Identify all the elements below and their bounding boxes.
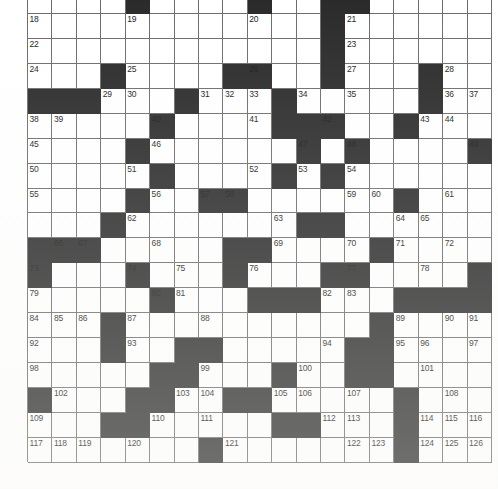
crossword-cell[interactable]: 85 — [52, 313, 76, 338]
crossword-cell[interactable] — [297, 189, 321, 214]
crossword-cell[interactable] — [248, 363, 272, 388]
crossword-cell[interactable]: 79 — [28, 288, 52, 313]
crossword-cell[interactable] — [297, 438, 321, 463]
crossword-cell[interactable] — [77, 64, 101, 89]
crossword-cell[interactable]: 86 — [77, 313, 101, 338]
crossword-cell[interactable]: 60 — [370, 189, 394, 214]
crossword-cell[interactable] — [126, 114, 150, 139]
crossword-cell[interactable] — [77, 363, 101, 388]
crossword-cell[interactable] — [101, 263, 125, 288]
crossword-cell[interactable]: 51 — [126, 164, 150, 189]
crossword-cell[interactable]: 32 — [223, 89, 247, 114]
crossword-cell[interactable] — [394, 14, 418, 39]
crossword-cell[interactable] — [468, 164, 492, 189]
crossword-cell[interactable] — [77, 14, 101, 39]
crossword-cell[interactable] — [150, 338, 174, 363]
crossword-cell[interactable] — [175, 14, 199, 39]
crossword-cell[interactable] — [77, 213, 101, 238]
crossword-cell[interactable] — [394, 64, 418, 89]
crossword-cell[interactable]: 22 — [28, 39, 52, 64]
crossword-cell[interactable] — [175, 139, 199, 164]
crossword-cell[interactable]: 87 — [126, 313, 150, 338]
crossword-cell[interactable] — [419, 0, 443, 14]
crossword-cell[interactable] — [28, 0, 52, 14]
crossword-cell[interactable]: 24 — [28, 64, 52, 89]
crossword-cell[interactable] — [77, 114, 101, 139]
crossword-cell[interactable]: 118 — [52, 438, 76, 463]
crossword-cell[interactable] — [199, 238, 223, 263]
crossword-cell[interactable]: 45 — [28, 139, 52, 164]
crossword-cell[interactable] — [394, 0, 418, 14]
crossword-cell[interactable] — [468, 189, 492, 214]
crossword-cell[interactable] — [77, 338, 101, 363]
crossword-cell[interactable] — [52, 14, 76, 39]
crossword-cell[interactable] — [101, 139, 125, 164]
crossword-cell[interactable]: 90 — [443, 313, 467, 338]
crossword-cell[interactable] — [175, 189, 199, 214]
crossword-cell[interactable]: 68 — [150, 238, 174, 263]
crossword-cell[interactable]: 39 — [52, 114, 76, 139]
crossword-cell[interactable] — [370, 139, 394, 164]
crossword-cell[interactable]: 108 — [443, 388, 467, 413]
crossword-cell[interactable] — [272, 14, 296, 39]
crossword-cell[interactable] — [468, 388, 492, 413]
crossword-cell[interactable]: 20 — [248, 14, 272, 39]
crossword-cell[interactable] — [77, 139, 101, 164]
crossword-cell[interactable] — [101, 39, 125, 64]
crossword-cell[interactable] — [52, 164, 76, 189]
crossword-cell[interactable] — [150, 0, 174, 14]
crossword-cell[interactable]: 88 — [199, 313, 223, 338]
crossword-cell[interactable] — [150, 89, 174, 114]
crossword-cell[interactable] — [175, 413, 199, 438]
crossword-cell[interactable]: 19 — [126, 14, 150, 39]
crossword-cell[interactable]: 112 — [321, 413, 345, 438]
crossword-cell[interactable]: 84 — [28, 313, 52, 338]
crossword-cell[interactable]: 98 — [28, 363, 52, 388]
crossword-cell[interactable] — [223, 313, 247, 338]
crossword-cell[interactable]: 38 — [28, 114, 52, 139]
crossword-cell[interactable] — [223, 39, 247, 64]
crossword-cell[interactable]: 31 — [199, 89, 223, 114]
crossword-cell[interactable]: 115 — [443, 413, 467, 438]
crossword-cell[interactable]: 111 — [199, 413, 223, 438]
crossword-cell[interactable]: 114 — [419, 413, 443, 438]
crossword-cell[interactable] — [297, 263, 321, 288]
crossword-cell[interactable] — [101, 238, 125, 263]
crossword-cell[interactable] — [419, 313, 443, 338]
crossword-cell[interactable]: 91 — [468, 313, 492, 338]
crossword-cell[interactable]: 109 — [28, 413, 52, 438]
crossword-cell[interactable] — [419, 39, 443, 64]
crossword-cell[interactable] — [468, 238, 492, 263]
crossword-cell[interactable] — [52, 288, 76, 313]
crossword-cell[interactable] — [77, 189, 101, 214]
crossword-cell[interactable]: 59 — [345, 189, 369, 214]
crossword-cell[interactable] — [150, 438, 174, 463]
crossword-cell[interactable] — [321, 313, 345, 338]
crossword-cell[interactable] — [199, 263, 223, 288]
crossword-cell[interactable]: 120 — [126, 438, 150, 463]
crossword-cell[interactable] — [272, 313, 296, 338]
crossword-cell[interactable]: 41 — [248, 114, 272, 139]
crossword-cell[interactable] — [101, 14, 125, 39]
crossword-cell[interactable]: 27 — [345, 64, 369, 89]
crossword-cell[interactable]: 102 — [52, 388, 76, 413]
crossword-cell[interactable] — [345, 213, 369, 238]
crossword-cell[interactable]: 46 — [150, 139, 174, 164]
crossword-cell[interactable] — [297, 0, 321, 14]
crossword-cell[interactable] — [101, 388, 125, 413]
crossword-cell[interactable]: 97 — [468, 338, 492, 363]
crossword-cell[interactable] — [223, 139, 247, 164]
crossword-cell[interactable] — [175, 213, 199, 238]
crossword-cell[interactable]: 35 — [345, 89, 369, 114]
crossword-cell[interactable] — [370, 39, 394, 64]
crossword-cell[interactable] — [370, 388, 394, 413]
crossword-cell[interactable] — [223, 114, 247, 139]
crossword-cell[interactable] — [52, 64, 76, 89]
crossword-cell[interactable] — [248, 139, 272, 164]
crossword-cell[interactable] — [443, 39, 467, 64]
crossword-cell[interactable] — [370, 0, 394, 14]
crossword-cell[interactable] — [297, 238, 321, 263]
crossword-cell[interactable] — [370, 89, 394, 114]
crossword-cell[interactable]: 43 — [419, 114, 443, 139]
crossword-cell[interactable]: 30 — [126, 89, 150, 114]
